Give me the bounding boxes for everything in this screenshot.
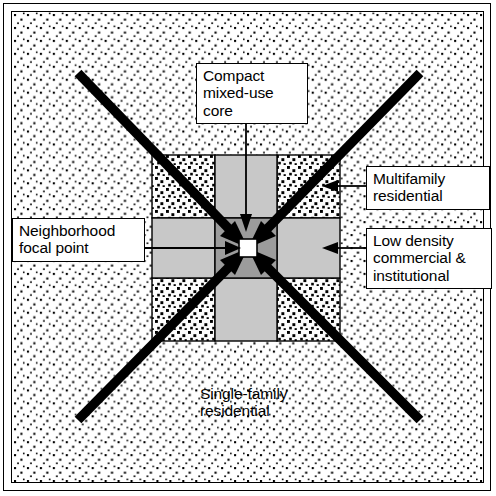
leader-multifamily	[322, 180, 366, 192]
label-multifamily-residential: Multifamily residential	[366, 166, 490, 210]
leader-compact-core	[240, 112, 252, 232]
label-compact-mixed-use-core: Compact mixed-use core	[196, 63, 308, 124]
leader-low-density	[322, 242, 366, 254]
leader-focal-point	[145, 241, 241, 255]
label-single-family-residential: Single-family residential	[200, 385, 350, 420]
label-low-density-commercial-institutional: Low density commercial & institutional	[366, 228, 492, 289]
label-neighborhood-focal-point: Neighborhood focal point	[12, 218, 145, 262]
neighborhood-structure-diagram: Compact mixed-use core Multifamily resid…	[0, 0, 496, 496]
